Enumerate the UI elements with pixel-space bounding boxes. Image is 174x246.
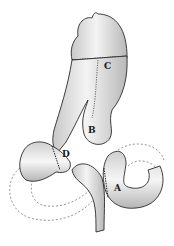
label-a: A: [114, 184, 121, 193]
label-c: C: [104, 62, 111, 71]
surgical-illustration: A B C D: [0, 0, 174, 246]
limb-b: [53, 56, 127, 152]
anatomy-drawing: [0, 0, 174, 246]
label-d: D: [62, 150, 70, 159]
segment-d: [20, 142, 71, 181]
upper-pouch: [71, 13, 127, 60]
label-b: B: [88, 126, 96, 135]
